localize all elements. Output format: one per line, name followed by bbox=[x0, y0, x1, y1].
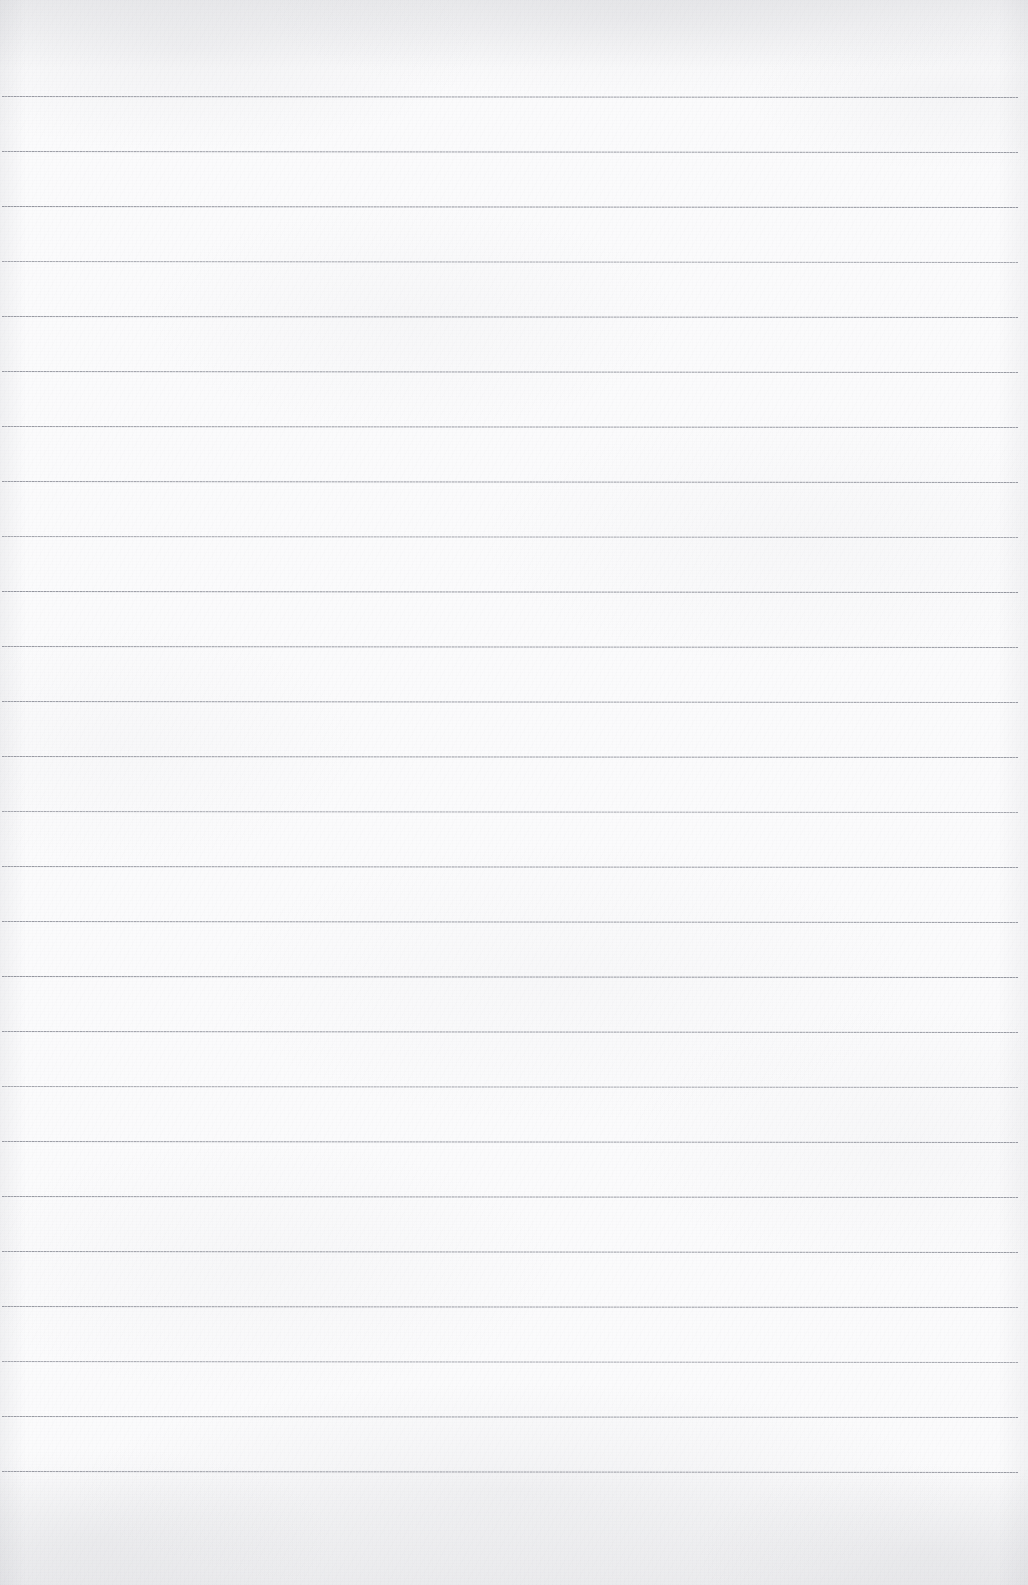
ruled-line bbox=[2, 921, 1018, 923]
ruled-line bbox=[2, 756, 1018, 758]
ruled-line bbox=[2, 866, 1018, 868]
scanned-page bbox=[0, 0, 1028, 1585]
ruled-line bbox=[2, 701, 1018, 703]
ruled-line bbox=[2, 371, 1018, 373]
ruled-line bbox=[2, 976, 1018, 978]
ruled-line bbox=[2, 316, 1018, 318]
ruled-line bbox=[2, 1416, 1018, 1418]
ruled-line bbox=[2, 1471, 1018, 1473]
ruled-line bbox=[2, 1306, 1018, 1308]
ruled-lines-group bbox=[0, 0, 1028, 1585]
ruled-line bbox=[2, 1251, 1018, 1253]
ruled-line bbox=[2, 1361, 1018, 1363]
ruled-line bbox=[2, 426, 1018, 428]
ruled-line bbox=[2, 1141, 1018, 1143]
ruled-line bbox=[2, 811, 1018, 813]
ruled-line bbox=[2, 591, 1018, 593]
ruled-line bbox=[2, 261, 1018, 263]
ruled-line bbox=[2, 206, 1018, 208]
ruled-line bbox=[2, 481, 1018, 483]
ruled-line bbox=[2, 1086, 1018, 1088]
ruled-line bbox=[2, 1196, 1018, 1198]
ruled-line bbox=[2, 536, 1018, 538]
ruled-line bbox=[2, 96, 1018, 98]
ruled-line bbox=[2, 1031, 1018, 1033]
ruled-line bbox=[2, 646, 1018, 648]
ruled-line bbox=[2, 151, 1018, 153]
